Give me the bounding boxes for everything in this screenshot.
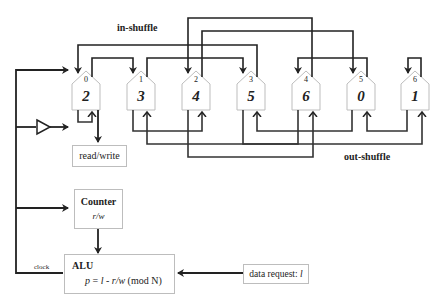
cell-value: 6 bbox=[292, 88, 320, 105]
counter-value: r/w bbox=[75, 211, 122, 221]
cell-index: 1 bbox=[127, 75, 155, 84]
cell-index: 0 bbox=[72, 75, 100, 84]
out-shuffle-label: out-shuffle bbox=[344, 151, 390, 162]
cell-value: 5 bbox=[237, 88, 265, 105]
out-shuffle-wires bbox=[78, 110, 422, 157]
read-write-label: read/write bbox=[73, 146, 126, 166]
cell-index: 4 bbox=[292, 75, 320, 84]
buffer-icon bbox=[37, 120, 50, 134]
cell-value: 4 bbox=[182, 88, 210, 105]
cell-value: 3 bbox=[127, 88, 155, 105]
alu-formula: p = l - r/w (mod N) bbox=[85, 275, 162, 286]
clock-label: clock bbox=[34, 263, 49, 271]
in-shuffle-label: in-shuffle bbox=[117, 22, 158, 33]
read-write-box: read/write bbox=[72, 145, 127, 167]
data-request-box: data request: l bbox=[243, 264, 309, 284]
alu-title: ALU bbox=[72, 260, 93, 271]
cell-value: 0 bbox=[347, 88, 375, 105]
counter-box: Counter r/w bbox=[74, 189, 123, 229]
cell-value: 1 bbox=[401, 88, 429, 105]
cell-index: 3 bbox=[237, 75, 265, 84]
alu-box: ALU p = l - r/w (mod N) bbox=[64, 254, 175, 294]
data-request-label: data request: l bbox=[244, 265, 308, 283]
counter-title: Counter bbox=[75, 196, 122, 207]
cell-index: 5 bbox=[347, 75, 375, 84]
cell-index: 2 bbox=[182, 75, 210, 84]
cell-value: 2 bbox=[72, 88, 100, 105]
cell-index: 6 bbox=[401, 75, 429, 84]
